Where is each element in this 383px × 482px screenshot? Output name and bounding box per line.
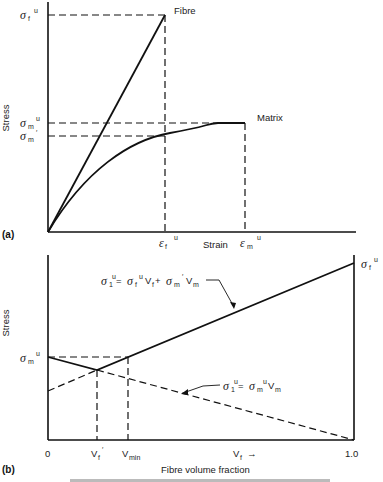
svg-text:ε: ε bbox=[240, 236, 245, 250]
composite-strength-envelope bbox=[48, 263, 354, 370]
svg-text:u: u bbox=[139, 273, 143, 280]
svg-text:V: V bbox=[233, 448, 240, 459]
svg-text:=: = bbox=[116, 275, 122, 286]
svg-text:u: u bbox=[36, 350, 40, 357]
svg-text:m: m bbox=[275, 386, 281, 393]
lower-equation: σ 1 u = σ m u V m bbox=[223, 378, 281, 393]
svg-text:+: + bbox=[155, 275, 161, 286]
svg-text:f: f bbox=[28, 15, 30, 22]
upper-equation: σ 1 u = σ f u V f + σ m ′ V m bbox=[101, 273, 199, 288]
tick-vmin: V min bbox=[122, 448, 140, 461]
svg-text:′: ′ bbox=[102, 446, 104, 453]
svg-text:σ: σ bbox=[20, 129, 27, 143]
svg-text:σ: σ bbox=[249, 379, 256, 393]
svg-text:→: → bbox=[247, 448, 257, 459]
svg-text:1: 1 bbox=[231, 386, 235, 393]
svg-text:σ: σ bbox=[361, 257, 368, 271]
matrix-label: Matrix bbox=[257, 112, 283, 123]
panel-b-tag: (b) bbox=[2, 464, 15, 475]
svg-text:=: = bbox=[238, 380, 244, 391]
svg-text:V: V bbox=[122, 448, 129, 459]
svg-text:u: u bbox=[263, 378, 267, 385]
svg-text:m: m bbox=[193, 281, 199, 288]
svg-text:u: u bbox=[374, 256, 378, 263]
svg-text:V: V bbox=[186, 275, 193, 286]
svg-text:u: u bbox=[36, 115, 40, 122]
svg-text:σ: σ bbox=[223, 379, 230, 393]
panel-a-xlabel: Strain bbox=[203, 239, 228, 250]
svg-text:m: m bbox=[174, 281, 180, 288]
svg-text:′: ′ bbox=[182, 273, 184, 280]
svg-text:m: m bbox=[28, 358, 34, 365]
fibre-controlled-extension bbox=[48, 370, 97, 391]
upper-eq-arrowhead bbox=[230, 302, 236, 309]
panel-b-xlabel: Fibre volume fraction bbox=[161, 464, 250, 475]
svg-text:f: f bbox=[240, 454, 242, 461]
tick-b-sigma-m-u: σ m u bbox=[20, 350, 40, 365]
svg-text:f: f bbox=[152, 281, 154, 288]
svg-text:σ: σ bbox=[20, 351, 27, 365]
svg-text:f: f bbox=[165, 243, 167, 250]
svg-text:V: V bbox=[268, 380, 275, 391]
lower-eq-arrowhead bbox=[181, 389, 188, 395]
svg-text:ε: ε bbox=[159, 236, 164, 250]
tick-sigma-m-prime: σ m ′ bbox=[20, 129, 38, 143]
svg-text:u: u bbox=[257, 234, 261, 241]
svg-text:σ: σ bbox=[101, 274, 108, 288]
tick-eps-f-u: ε f u bbox=[159, 234, 178, 250]
svg-text:1: 1 bbox=[109, 281, 113, 288]
panel-b: σ 1 u = σ f u V f + σ m ′ V m σ 1 u = σ … bbox=[0, 255, 378, 482]
svg-text:σ: σ bbox=[127, 274, 134, 288]
svg-text:f: f bbox=[369, 264, 371, 271]
svg-text:m: m bbox=[247, 243, 253, 250]
svg-text:f: f bbox=[98, 454, 100, 461]
svg-text:σ: σ bbox=[166, 274, 173, 288]
svg-text:σ: σ bbox=[20, 116, 27, 130]
tick-one: 1.0 bbox=[345, 448, 358, 459]
svg-text:V: V bbox=[145, 275, 152, 286]
svg-text:m: m bbox=[28, 136, 34, 143]
svg-text:σ: σ bbox=[20, 8, 27, 22]
svg-text:m: m bbox=[28, 123, 34, 130]
svg-text:m: m bbox=[257, 386, 263, 393]
tick-b-sigma-f-u: σ f u bbox=[361, 256, 378, 271]
panel-b-ylabel: Stress bbox=[0, 309, 11, 336]
svg-text:u: u bbox=[174, 234, 178, 241]
tick-sigma-f-u: σ f u bbox=[20, 7, 38, 22]
upper-eq-leader bbox=[206, 280, 234, 307]
panel-a-ylabel: Stress bbox=[0, 104, 11, 131]
svg-text:V: V bbox=[91, 448, 98, 459]
fibre-label: Fibre bbox=[174, 5, 196, 16]
tick-sigma-m-u: σ m u bbox=[20, 115, 40, 130]
panel-a: Fibre Matrix σ f u σ m u σ m ′ Stress ε … bbox=[0, 2, 356, 250]
tick-vf: V f → bbox=[233, 448, 257, 461]
svg-text:u: u bbox=[34, 7, 38, 14]
svg-text:min: min bbox=[129, 454, 140, 461]
panel-a-tag: (a) bbox=[2, 229, 14, 240]
svg-text:′: ′ bbox=[36, 129, 38, 136]
tick-zero: 0 bbox=[45, 448, 50, 459]
diagram-canvas: Fibre Matrix σ f u σ m u σ m ′ Stress ε … bbox=[0, 0, 383, 482]
tick-eps-m-u: ε m u bbox=[240, 234, 261, 250]
svg-text:f: f bbox=[135, 281, 137, 288]
tick-vf-prime: V f ′ bbox=[91, 446, 104, 461]
lower-eq-leader bbox=[183, 385, 220, 393]
